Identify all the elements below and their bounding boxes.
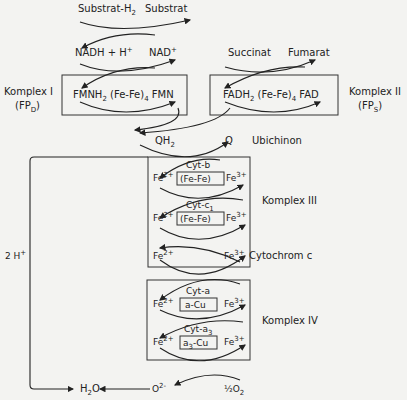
fefe-label: (Fe-Fe) bbox=[180, 213, 211, 225]
a3-cu-label: a3-Cu bbox=[183, 337, 208, 349]
substrate-label: Substrat bbox=[145, 3, 187, 15]
cyt-a-label: Cyt-a bbox=[186, 285, 210, 297]
fe3-label: Fe3+ bbox=[226, 172, 247, 184]
fe2-label: Fe2+ bbox=[153, 298, 174, 310]
fmnh2-label: FMNH2 (Fe-Fe)4 FMN bbox=[73, 89, 174, 101]
oxygen-label: ½O2 bbox=[224, 383, 244, 395]
succinat-label: Succinat bbox=[228, 47, 271, 59]
oxide-label: O2- bbox=[152, 383, 166, 395]
fe2-label: Fe2+ bbox=[153, 250, 174, 262]
fadh2-label: FADH2 (Fe-Fe)4 FAD bbox=[223, 89, 319, 101]
fe2-label: Fe2+ bbox=[153, 336, 174, 348]
protons-label: 2 H+ bbox=[5, 250, 26, 262]
fe2-label: Fe2+ bbox=[153, 212, 174, 224]
a-cu-label: a-Cu bbox=[185, 299, 206, 311]
complex4-label: Komplex IV bbox=[262, 315, 318, 327]
nadh-label: NADH + H+ bbox=[75, 47, 133, 59]
cytochrom-c-label: Cytochrom c bbox=[249, 250, 312, 262]
fe2-label: Fe2+ bbox=[153, 172, 174, 184]
q-label: Q bbox=[225, 135, 233, 147]
cyt-a3-label: Cyt-a3 bbox=[184, 323, 212, 335]
complex1-sublabel: (FPD) bbox=[15, 100, 40, 112]
fumarat-label: Fumarat bbox=[288, 47, 330, 59]
fefe-label: (Fe-Fe) bbox=[180, 173, 211, 185]
nad-label: NAD+ bbox=[149, 47, 177, 59]
fe3-label: Fe3+ bbox=[224, 336, 245, 348]
fe3-label: Fe3+ bbox=[224, 298, 245, 310]
fe3-label: Fe3+ bbox=[224, 250, 245, 262]
complex2-sublabel: (FPS) bbox=[358, 100, 382, 112]
fe3-label: Fe3+ bbox=[226, 212, 247, 224]
substrate-h2-label: Substrat-H2 bbox=[78, 3, 136, 15]
complex2-label: Komplex II bbox=[349, 86, 401, 98]
water-label: H2O bbox=[80, 383, 100, 395]
cyt-b-label: Cyt-b bbox=[186, 159, 210, 171]
complex3-label: Komplex III bbox=[262, 195, 317, 207]
ubichinon-label: Ubichinon bbox=[252, 135, 302, 147]
cyt-c1-label: Cyt-c1 bbox=[186, 199, 214, 211]
complex1-label: Komplex I bbox=[4, 86, 53, 98]
qh2-label: QH2 bbox=[155, 135, 175, 147]
